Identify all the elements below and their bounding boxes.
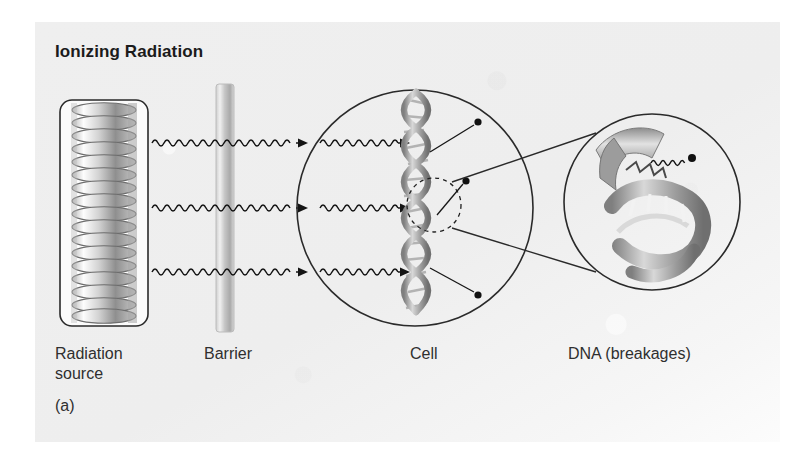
dna-inset-graphic xyxy=(564,114,740,290)
damage-dot-1 xyxy=(474,118,481,125)
damage-dot-3 xyxy=(474,291,481,298)
cell-dna-helix xyxy=(404,92,428,312)
figure-page: Ionizing Radiation xyxy=(0,0,797,457)
marker-leader-1 xyxy=(430,125,474,152)
broken-dna-helix xyxy=(596,128,703,276)
label-dna: DNA (breakages) xyxy=(568,344,691,364)
dna-ribbon-highlight xyxy=(618,216,688,232)
radiation-source-graphic xyxy=(60,100,148,326)
damage-dots xyxy=(462,118,481,298)
radiation-source-coil xyxy=(71,103,137,323)
label-cell: Cell xyxy=(410,344,438,364)
panel-label: (a) xyxy=(55,396,75,416)
break-highlight-circle xyxy=(407,178,461,232)
marker-leader-3 xyxy=(430,268,474,292)
damage-markers xyxy=(430,125,474,292)
ray-1-segment-2 xyxy=(320,140,398,146)
inset-radiation-ray xyxy=(651,154,696,166)
radiation-rays xyxy=(152,140,408,275)
magnifier-leader-bottom xyxy=(452,228,596,272)
ray-2-segment-2 xyxy=(320,205,398,211)
ray-3-segment-2 xyxy=(320,269,398,275)
magnifier-leader-top xyxy=(452,133,596,182)
label-radiation-source: Radiation source xyxy=(55,344,123,384)
label-barrier: Barrier xyxy=(204,344,252,364)
diagram-artwork xyxy=(0,0,797,457)
marker-leader-2 xyxy=(437,184,463,215)
inset-ray-wave xyxy=(651,161,685,166)
inset-ray-dot xyxy=(688,154,696,162)
